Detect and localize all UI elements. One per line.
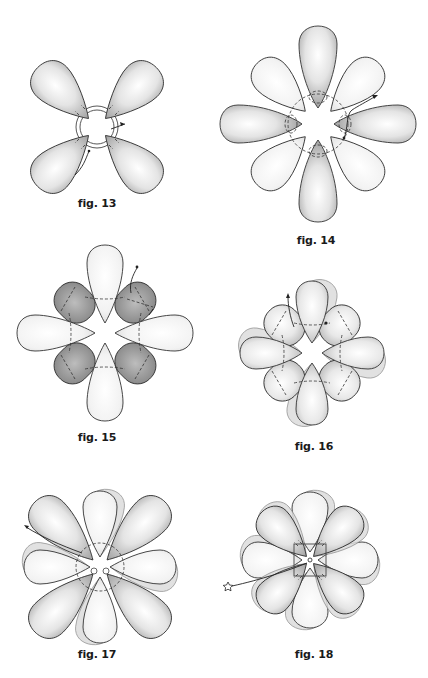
figure-18: fig. 18 <box>214 456 428 678</box>
figure-14: fig. 14 <box>214 0 428 260</box>
figure-caption: fig. 14 <box>297 234 335 247</box>
figure-caption: fig. 16 <box>295 440 333 453</box>
figure-caption: fig. 13 <box>78 197 116 210</box>
eight-petal-layered-diagram <box>214 260 428 460</box>
figure-17: fig. 17 <box>0 456 214 678</box>
eight-petal-two-layer-diagram <box>0 456 214 678</box>
eight-petal-star-diagram <box>214 0 428 260</box>
eight-petal-star-bead-diagram <box>214 456 428 678</box>
figure-caption: fig. 18 <box>295 648 333 661</box>
figure-13: fig. 13 <box>0 0 214 226</box>
figure-15: fig. 15 <box>0 226 214 456</box>
figure-caption: fig. 17 <box>78 648 116 661</box>
star-bead-icon <box>223 582 233 591</box>
figure-caption: fig. 15 <box>78 431 116 444</box>
eight-petal-mixed-diagram <box>0 226 214 456</box>
four-petal-x-diagram <box>0 0 214 226</box>
figure-16: fig. 16 <box>214 260 428 460</box>
